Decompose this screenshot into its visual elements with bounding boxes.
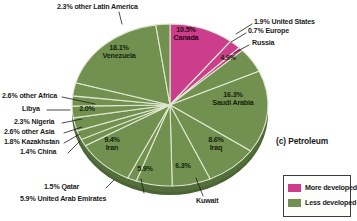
wedge-label-iran: 9.4% Iran: [92, 136, 132, 152]
wedge-label-libya-pct-value: 2.0%: [70, 105, 104, 113]
label-libya-name: Libya: [22, 105, 40, 113]
label-kazakhstan: 1.8% Kazakhstan: [4, 139, 59, 147]
wedge-label-saudi-arabia-name: Saudi Arabia: [202, 99, 264, 107]
wedge-label-iran-name: Iran: [92, 144, 132, 152]
label-united-states-pct: 1.9%: [254, 18, 270, 26]
label-united-arab-emirates-name: United Arab Emirates: [37, 195, 106, 203]
wedge-label-russia-pct: 4.9%: [211, 54, 245, 62]
label-qatar-pct: 1.5%: [44, 183, 60, 191]
label-nigeria: 2.3% Nigeria: [14, 119, 54, 127]
label-united-states-name: United States: [271, 18, 314, 26]
label-united-states: 1.9% United States: [254, 19, 315, 27]
wedge-label-canada: 10.5% Canada: [160, 26, 212, 42]
wedge-label-russia-pct-value: 4.9%: [211, 54, 245, 62]
label-other-asia-name: other Asia: [21, 128, 54, 136]
label-united-arab-emirates-pct: 5.9%: [20, 195, 36, 203]
label-other-latin-america-name: other Latin America: [74, 3, 138, 11]
label-china-pct: 1.4%: [20, 148, 36, 156]
label-qatar-name: Qatar: [61, 183, 79, 191]
label-russia-name: Russia: [252, 39, 274, 47]
label-russia: Russia: [252, 40, 274, 48]
wedge-label-iraq-name: Iraq: [196, 144, 236, 152]
label-kazakhstan-name: Kazakhstan: [21, 138, 59, 146]
label-other-asia-pct: 2.6%: [4, 128, 20, 136]
wedge-label-kuwait-pct: 6.3%: [166, 162, 200, 170]
wedge-label-uae-pct-value: 5.9%: [128, 165, 162, 173]
wedge-label-kuwait-pct-value: 6.3%: [166, 162, 200, 170]
wedge-label-venezuela-name: Venezuela: [88, 52, 150, 60]
wedge-label-libya-pct: 2.0%: [70, 105, 104, 113]
legend-label-less-developed: Less developed: [305, 198, 356, 207]
label-nigeria-pct: 2.3%: [14, 118, 30, 126]
label-kazakhstan-pct: 1.8%: [4, 138, 20, 146]
label-china: 1.4% China: [20, 149, 56, 157]
label-other-africa-pct: 2.6%: [2, 92, 18, 100]
legend-swatch-less-developed: [288, 199, 301, 207]
legend-item-less-developed: Less developed: [288, 195, 347, 210]
wedge-label-uae-pct: 5.9%: [128, 165, 162, 173]
chart-caption: (c) Petroleum: [276, 136, 328, 146]
label-united-arab-emirates: 5.9% United Arab Emirates: [20, 196, 106, 204]
wedge-label-venezuela: 18.1% Venezuela: [88, 44, 150, 60]
label-nigeria-name: Nigeria: [31, 118, 54, 126]
wedge-label-canada-name: Canada: [160, 34, 212, 42]
label-europe-pct: 0.7%: [248, 27, 264, 35]
label-other-africa: 2.6% other Africa: [2, 93, 57, 101]
label-qatar: 1.5% Qatar: [44, 184, 79, 192]
wedge-label-iraq: 8.6% Iraq: [196, 136, 236, 152]
legend-item-more-developed: More developed: [288, 180, 347, 195]
label-other-latin-america-pct: 2.3%: [57, 3, 73, 11]
legend-label-more-developed: More developed: [305, 183, 357, 192]
label-kuwait-name: Kuwait: [196, 197, 218, 205]
label-other-asia: 2.6% other Asia: [4, 129, 54, 137]
label-europe-name: Europe: [265, 27, 289, 35]
legend-swatch-more-developed: [288, 184, 301, 192]
label-libya: Libya: [22, 106, 40, 114]
wedge-label-saudi-arabia: 16.3% Saudi Arabia: [202, 91, 264, 107]
legend: More developed Less developed: [283, 175, 351, 217]
label-china-name: China: [37, 148, 56, 156]
label-other-africa-name: other Africa: [19, 92, 57, 100]
label-europe: 0.7% Europe: [248, 28, 289, 36]
label-other-latin-america: 2.3% other Latin America: [57, 4, 138, 12]
label-kuwait: Kuwait: [196, 198, 218, 206]
